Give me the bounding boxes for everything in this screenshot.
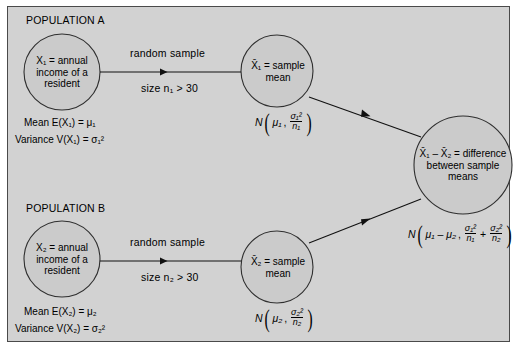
dist-diff-term1: σ₁² n₁ (463, 224, 478, 244)
population-b-variance: Variance V(X₂) = σ₂² (15, 323, 105, 334)
difference-line2: between sample (411, 160, 515, 172)
pop-a-var-line1: X₁ = annual (22, 55, 102, 67)
sample-mean-2-distribution: N ( μ₂, σ₂² n₂ ) (255, 308, 314, 328)
dist-diff-t2-num: σ₂² (488, 224, 504, 233)
population-b-mean: Mean E(X₂) = μ₂ (24, 306, 97, 317)
arrow-a-label-bottom: size n₁ > 30 (141, 82, 198, 94)
arrowhead-diag-lower (361, 218, 371, 225)
dist-diff-symbol: N (408, 228, 416, 240)
difference-distribution: N ( μ₁ – μ₂, σ₁² n₁ + σ₂² n₂ ) (408, 224, 513, 244)
arrow-b-label-bottom: size n₂ > 30 (141, 271, 199, 283)
population-b-variable-text: X₂ = annual income of a resident (22, 242, 102, 277)
dist-1-mean: μ₁ (272, 116, 281, 128)
arrowhead-b (160, 258, 168, 265)
sample-1-line1: X̄₁ = sample (243, 60, 313, 72)
arrowhead-diag-upper (361, 110, 371, 117)
dist-diff-operator: + (480, 228, 486, 240)
dist-diff-term2: σ₂² n₂ (488, 224, 504, 244)
dist-1-symbol: N (255, 116, 263, 128)
arrow-a-label-top: random sample (130, 47, 205, 59)
dist-2-mean: μ₂ (272, 312, 282, 324)
dist-1-var-den: n₁ (290, 121, 302, 131)
sample-2-line2: mean (243, 268, 313, 280)
population-a-mean: Mean E(X₁) = μ₁ (24, 117, 96, 128)
dist-diff-t1-den: n₁ (465, 233, 477, 243)
population-a-heading: POPULATION A (26, 14, 105, 26)
dist-diff-t1-num: σ₁² (463, 224, 478, 233)
pop-a-var-line3: resident (22, 78, 102, 90)
population-a-variance: Variance V(X₁) = σ₁² (15, 134, 104, 145)
dist-1-variance-fraction: σ₁² n₁ (288, 112, 303, 132)
difference-line1: X̄₁ – X̄₂ = difference (411, 148, 515, 160)
difference-line3: means (411, 171, 515, 183)
pop-b-var-line2: income of a (22, 254, 102, 266)
population-a-variable-text: X₁ = annual income of a resident (22, 55, 102, 90)
sample-2-line1: X̄₂ = sample (243, 256, 313, 268)
sample-mean-1-text: X̄₁ = sample mean (243, 60, 313, 83)
sample-mean-1-distribution: N ( μ₁, σ₁² n₁ ) (255, 112, 313, 132)
dist-diff-mean: μ₁ – μ₂ (425, 228, 456, 240)
pop-a-var-line2: income of a (22, 67, 102, 79)
pop-b-var-line3: resident (22, 265, 102, 277)
dist-2-variance-fraction: σ₂² n₂ (289, 308, 305, 328)
dist-2-var-num: σ₂² (289, 308, 305, 317)
dist-2-symbol: N (255, 312, 263, 324)
sample-mean-2-text: X̄₂ = sample mean (243, 256, 313, 279)
difference-circle-text: X̄₁ – X̄₂ = difference between sample me… (411, 148, 515, 183)
arrow-b-label-top: random sample (130, 236, 205, 248)
dist-2-var-den: n₂ (291, 317, 303, 327)
sample-1-line2: mean (243, 72, 313, 84)
population-b-heading: POPULATION B (26, 202, 105, 214)
arrowhead-a (160, 69, 168, 76)
dist-diff-t2-den: n₂ (490, 233, 502, 243)
dist-1-var-num: σ₁² (288, 112, 303, 121)
arrow-sample-1-to-difference (309, 97, 421, 137)
pop-b-var-line1: X₂ = annual (22, 242, 102, 254)
